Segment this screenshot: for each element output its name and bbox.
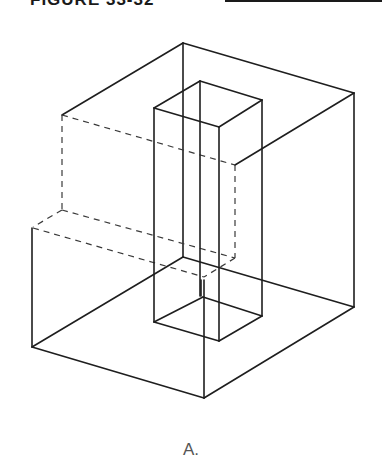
hidden-lines [33, 115, 235, 277]
inner-column [154, 81, 262, 341]
isometric-drawing [0, 0, 382, 465]
figure-caption: A. [183, 440, 199, 460]
outer-block [32, 43, 354, 398]
